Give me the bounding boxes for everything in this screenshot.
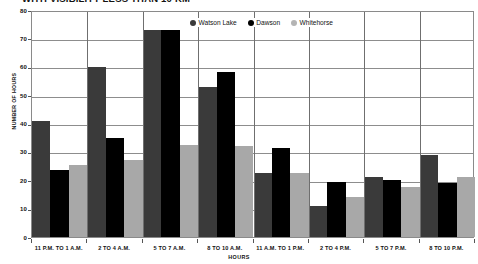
x-axis-tick-mark	[474, 239, 475, 243]
legend-item-dawson[interactable]: Dawson	[248, 19, 280, 26]
bar	[254, 173, 272, 237]
legend-swatch-icon	[190, 20, 196, 26]
y-axis-tick-label: 50	[5, 93, 27, 99]
x-axis-tick-mark	[363, 239, 364, 243]
plot-area	[31, 11, 474, 238]
bar	[383, 180, 401, 237]
group-separator	[420, 12, 421, 237]
bar	[161, 30, 179, 237]
bar	[143, 30, 161, 237]
x-axis-category-label: 5 TO 7 A.M.	[154, 245, 186, 251]
bar	[327, 182, 345, 237]
y-axis-tick-label: 20	[5, 178, 27, 184]
y-axis-tick-mark	[28, 125, 31, 126]
group-separator	[254, 12, 255, 237]
legend-label: Whitehorse	[300, 19, 333, 26]
legend-swatch-icon	[248, 20, 254, 26]
bar	[420, 155, 438, 237]
y-axis-tick-label: 80	[5, 8, 27, 14]
x-axis-category-label: 11 P.M. TO 1 A.M.	[35, 245, 83, 251]
y-axis-tick-label: 60	[5, 64, 27, 70]
bar	[217, 72, 235, 237]
bar	[69, 165, 87, 237]
y-axis-tick-label: 40	[5, 121, 27, 127]
bar	[272, 148, 290, 237]
y-axis-tick-label: 30	[5, 149, 27, 155]
group-separator	[198, 12, 199, 237]
y-axis-tick-mark	[28, 181, 31, 182]
bar	[401, 187, 419, 237]
group-separator	[87, 12, 88, 237]
legend-label: Dawson	[256, 19, 280, 26]
x-axis-tick-mark	[253, 239, 254, 243]
group-separator	[364, 12, 365, 237]
bar	[198, 87, 216, 237]
legend-label: Watson Lake	[199, 19, 237, 26]
y-axis-tick-mark	[28, 68, 31, 69]
bar	[235, 146, 253, 237]
y-axis-tick-mark	[28, 210, 31, 211]
x-axis-tick-mark	[197, 239, 198, 243]
y-axis-tick-label: 0	[5, 235, 27, 241]
y-axis-tick-label: 70	[5, 36, 27, 42]
chart-legend: Watson Lake Dawson Whitehorse	[188, 18, 335, 27]
bar	[438, 183, 456, 237]
x-axis-category-label: 2 TO 4 P.M.	[320, 245, 351, 251]
legend-item-watson-lake[interactable]: Watson Lake	[190, 19, 237, 26]
bar	[32, 121, 50, 237]
y-axis-tick-label: 10	[5, 206, 27, 212]
bar	[457, 177, 475, 237]
bars-layer	[32, 12, 473, 237]
bar	[346, 197, 364, 237]
bar	[124, 160, 142, 237]
x-axis-category-label: 2 TO 4 A.M.	[98, 245, 130, 251]
group-separator	[309, 12, 310, 237]
legend-swatch-icon	[291, 20, 297, 26]
bar	[87, 67, 105, 237]
x-axis-tick-mark	[31, 239, 32, 243]
x-axis-category-label: 8 TO 10 A.M.	[207, 245, 242, 251]
x-axis-category-label: 11 A.M. TO 1 P.M.	[256, 245, 304, 251]
bar	[309, 206, 327, 237]
x-axis-category-label: 8 TO 10 P.M.	[429, 245, 463, 251]
x-axis-title: HOURS	[0, 254, 478, 260]
x-axis-tick-mark	[142, 239, 143, 243]
y-axis-tick-mark	[28, 96, 31, 97]
bar	[50, 170, 68, 237]
bar	[106, 138, 124, 237]
legend-item-whitehorse[interactable]: Whitehorse	[291, 19, 333, 26]
bar	[290, 173, 308, 237]
x-axis-category-label: 5 TO 7 P.M.	[375, 245, 406, 251]
x-axis-tick-mark	[86, 239, 87, 243]
group-separator	[143, 12, 144, 237]
y-axis-tick-mark	[28, 11, 31, 12]
chart-root: WITH VISIBILITY LESS THAN 10 KM NUMBER O…	[0, 0, 478, 264]
y-axis-tick-mark	[28, 39, 31, 40]
x-axis-tick-mark	[308, 239, 309, 243]
x-axis-tick-mark	[419, 239, 420, 243]
y-axis-tick-mark	[28, 153, 31, 154]
chart-title: WITH VISIBILITY LESS THAN 10 KM	[22, 0, 190, 2]
bar	[180, 145, 198, 237]
bar	[364, 177, 382, 237]
